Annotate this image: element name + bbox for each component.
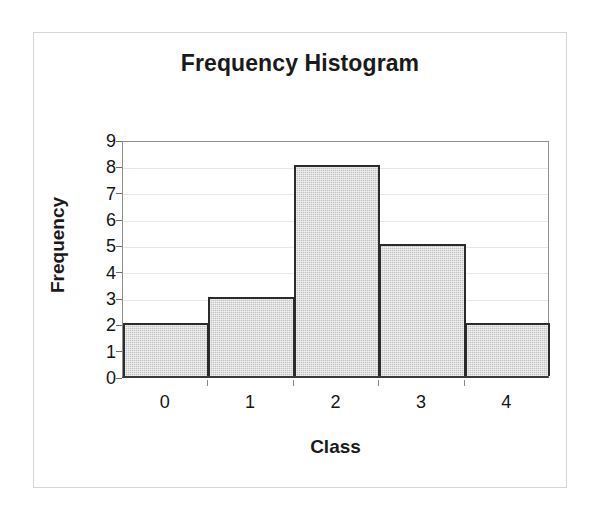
- x-axis-tick-label: 4: [476, 392, 536, 413]
- x-axis-tick-label: 3: [391, 392, 451, 413]
- histogram-bar: [379, 244, 465, 376]
- x-axis-tick-mark: [207, 380, 208, 386]
- y-axis-tick-labels: 0123456789: [88, 141, 116, 378]
- x-axis-tick-mark: [464, 380, 465, 386]
- x-axis-tick-mark: [293, 380, 294, 386]
- y-axis-tick-label: 0: [90, 369, 116, 387]
- y-axis-tick-label: 2: [90, 316, 116, 334]
- y-axis-title: Frequency: [47, 175, 71, 315]
- chart-title: Frequency Histogram: [60, 50, 540, 77]
- x-axis-tick-label: 0: [135, 392, 195, 413]
- y-axis-tick-label: 8: [90, 158, 116, 176]
- bars-layer: [123, 142, 548, 376]
- y-axis-tick-label: 9: [90, 132, 116, 150]
- x-axis-tick-label: 1: [220, 392, 280, 413]
- y-axis-tick-label: 3: [90, 290, 116, 308]
- histogram-bar: [294, 165, 380, 376]
- histogram-figure: Frequency Histogram Frequency Class 0123…: [0, 0, 595, 512]
- x-axis-tick-label: 2: [306, 392, 366, 413]
- histogram-bar: [208, 297, 294, 376]
- plot-area: [122, 141, 549, 378]
- y-axis-tick-label: 6: [90, 211, 116, 229]
- y-axis-tick-label: 5: [90, 237, 116, 255]
- x-axis-title: Class: [122, 436, 549, 458]
- y-axis-tick-label: 1: [90, 343, 116, 361]
- x-axis-tick-mark: [378, 380, 379, 386]
- histogram-bar: [123, 323, 209, 376]
- y-axis-tick-label: 7: [90, 185, 116, 203]
- histogram-bar: [465, 323, 550, 376]
- y-axis-tick-label: 4: [90, 264, 116, 282]
